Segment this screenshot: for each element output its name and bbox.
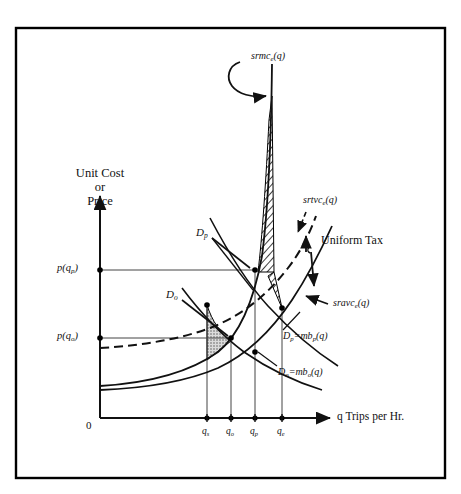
y-tick-p-qo-base: p(q [57, 330, 71, 341]
equilibrium-points [97, 267, 285, 420]
dp-full-b: =mb [294, 330, 313, 341]
srmc-base: srmc [251, 50, 270, 61]
srtvc-base: srtvc [303, 194, 322, 205]
x-tick-label-qe: qe [277, 426, 285, 437]
y-tick-p-qp-base: p(q [57, 262, 71, 273]
sravc-close: (q) [358, 297, 370, 308]
y-tick-label-p-qp: p(qp) [57, 262, 78, 275]
do-short-sub: o [174, 293, 178, 302]
point-lower-intersect [252, 349, 258, 355]
sravc-base: sravc [333, 297, 355, 308]
curve-label-srtvc: srtvce(q) [303, 194, 337, 207]
x-tick-label-qo: qo [226, 426, 234, 437]
srtvc-close: (q) [325, 194, 337, 205]
ytick-dot-qp [97, 267, 103, 273]
x-tick-qs-sub: s [207, 430, 210, 437]
x-axis-title: q Trips per Hr. [337, 410, 404, 423]
dp-short-base: D [196, 226, 204, 238]
curve-label-demand-private-short: Dp [196, 226, 208, 240]
srmc-close: (q) [273, 50, 285, 61]
point-qe [279, 305, 285, 311]
dp-short-sub: p [204, 231, 208, 240]
uniform-tax-label: Uniform Tax [321, 234, 383, 247]
y-tick-label-p-qo: p(qo) [57, 330, 78, 343]
x-axis-title-text: Trips per Hr. [345, 410, 404, 422]
x-tick-qp-sub: p [255, 430, 258, 437]
axis-lines [100, 196, 330, 418]
point-qo [228, 335, 234, 341]
curve-label-sravc: sravce(q) [333, 297, 369, 310]
ytick-dot-qo [97, 335, 103, 341]
y-axis-title-line3: Price [58, 194, 142, 208]
curve-label-demand-private-full: Dp=mbp(q) [283, 330, 328, 343]
x-tick-label-qp: qp [250, 426, 258, 437]
x-tick-label-qs: qs [202, 426, 209, 437]
y-axis-title-line2: or [58, 180, 142, 194]
do-full-c: (q) [311, 366, 323, 377]
x-tick-qe-sub: e [282, 430, 285, 437]
dp-full-c: (q) [316, 330, 328, 341]
do-full-b: =mb [289, 366, 308, 377]
x-axis-symbol: q [337, 410, 343, 422]
point-qp [252, 267, 258, 273]
curve-label-demand-optimal-short: Do [166, 288, 178, 302]
origin-label: 0 [86, 419, 92, 431]
y-axis-title-line1: Unit Cost [58, 166, 142, 180]
do-short-base: D [166, 288, 174, 300]
y-axis-title: Unit Cost or Price [58, 166, 142, 208]
x-tick-qo-sub: o [231, 430, 234, 437]
point-qs [204, 302, 210, 308]
curve-label-demand-optimal-full: Do=mbo(q) [278, 366, 323, 379]
curve-label-srmc: srmce(q) [251, 50, 285, 63]
figure-container: Unit Cost or Price 0 q Trips per Hr. p(q… [0, 0, 461, 494]
y-tick-p-qo-close: ) [75, 330, 79, 341]
y-tick-p-qp-close: ) [75, 262, 79, 273]
